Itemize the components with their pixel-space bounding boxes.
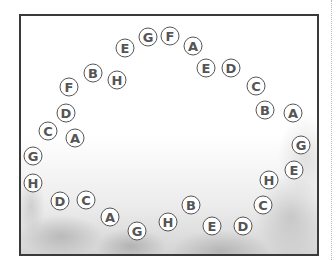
letter-token-c[interactable]: C	[39, 122, 58, 141]
letter-token-d[interactable]: D	[51, 192, 70, 211]
letter-token-h[interactable]: H	[108, 71, 127, 90]
letter-token-c[interactable]: C	[247, 77, 266, 96]
letter-token-a[interactable]: A	[284, 104, 303, 123]
letter-token-e[interactable]: E	[197, 59, 216, 78]
letter-token-d[interactable]: D	[57, 104, 76, 123]
letter-token-b[interactable]: B	[256, 101, 275, 120]
letter-token-d[interactable]: D	[234, 217, 253, 236]
letter-token-g[interactable]: G	[24, 147, 43, 166]
letter-token-g[interactable]: G	[139, 28, 158, 47]
letter-token-g[interactable]: G	[128, 222, 147, 241]
page-divider	[331, 0, 332, 260]
letter-token-d[interactable]: D	[222, 59, 241, 78]
letter-token-h[interactable]: H	[24, 174, 43, 193]
letter-token-b[interactable]: B	[182, 196, 201, 215]
letter-token-h[interactable]: H	[260, 171, 279, 190]
letter-token-g[interactable]: G	[292, 136, 311, 155]
letter-token-h[interactable]: H	[159, 213, 178, 232]
letter-token-a[interactable]: A	[101, 208, 120, 227]
letter-token-e[interactable]: E	[285, 161, 304, 180]
letter-token-e[interactable]: E	[116, 39, 135, 58]
letter-token-a[interactable]: A	[184, 37, 203, 56]
letter-token-c[interactable]: C	[254, 196, 273, 215]
letter-token-f[interactable]: F	[161, 27, 180, 46]
letter-token-c[interactable]: C	[77, 191, 96, 210]
letter-token-a[interactable]: A	[66, 129, 85, 148]
letter-token-e[interactable]: E	[203, 217, 222, 236]
letter-token-f[interactable]: F	[60, 78, 79, 97]
letter-token-b[interactable]: B	[84, 64, 103, 83]
